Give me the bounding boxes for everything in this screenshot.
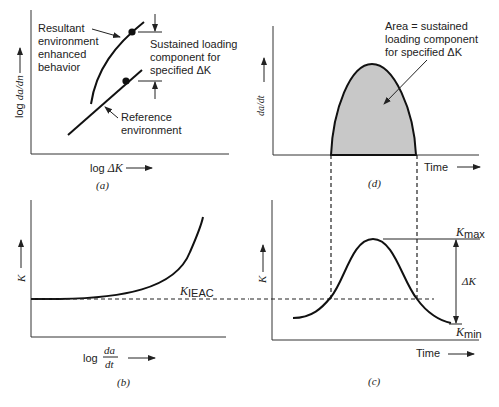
panel-b-xlabel-num: da xyxy=(104,344,116,356)
panel-a-xlabel: log ΔK xyxy=(90,161,124,175)
panel-c-axes xyxy=(272,200,479,340)
panel-b: K KIEAC log da dt (b) xyxy=(15,200,249,389)
svg-text:da/dt: da/dt xyxy=(255,95,266,116)
resultant-point xyxy=(128,28,135,35)
panel-b-ylabel: K xyxy=(15,274,27,283)
panel-d: da/dt Time (d) Area = sustained loading … xyxy=(255,20,481,190)
panel-d-xlabel: Time xyxy=(424,161,448,173)
panel-a-caption: (a) xyxy=(96,179,109,192)
sustained-annotation: Sustained loading component for specifie… xyxy=(150,38,241,76)
k-vs-time-curve xyxy=(293,239,451,323)
panel-c-ylabel: K xyxy=(256,275,268,284)
panel-c: K Kmax ΔK Kmin Time (c) xyxy=(250,200,485,388)
kmin-label: Kmin xyxy=(455,325,482,340)
panel-d-ylabel: da/dt xyxy=(255,95,266,116)
resultant-annotation: Resultant environment enhanced behavior xyxy=(38,22,102,73)
delta-k-label: ΔK xyxy=(461,275,476,287)
reference-pointer-arrow-icon xyxy=(105,107,118,118)
panel-b-xlabel-den: dt xyxy=(105,358,115,370)
panel-b-xlabel-prefix: log xyxy=(83,352,98,364)
svg-text:log da/dn: log da/dn xyxy=(13,75,25,118)
panel-a-ylabel: log da/dn xyxy=(13,75,25,118)
panel-a: log da/dn log ΔK (a) Resultant environme… xyxy=(13,10,241,192)
k-vs-dadt-curve xyxy=(31,217,203,299)
reference-annotation: Reference environment xyxy=(121,111,182,136)
panel-c-caption: (c) xyxy=(368,375,381,388)
svg-text:K: K xyxy=(15,274,27,283)
panel-b-caption: (b) xyxy=(117,376,130,389)
panel-c-xlabel: Time xyxy=(416,347,440,359)
panel-d-caption: (d) xyxy=(368,177,381,190)
kmax-label: Kmax xyxy=(455,225,485,240)
svg-text:K: K xyxy=(256,275,268,284)
panel-b-axes xyxy=(31,200,226,337)
sustained-area xyxy=(331,64,416,155)
area-annotation: Area = sustained loading component for s… xyxy=(385,20,481,58)
reference-point xyxy=(122,77,129,84)
kieac-label: KIEAC xyxy=(179,284,214,299)
